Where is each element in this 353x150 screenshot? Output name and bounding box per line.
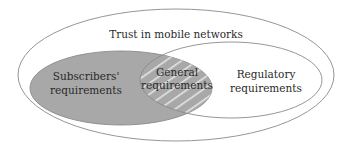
general-label-line1: General	[156, 66, 199, 78]
subscribers-label-line2: requirements	[50, 84, 122, 96]
regulatory-label-line2: requirements	[230, 82, 302, 94]
venn-diagram: Trust in mobile networks Subscribers' re…	[0, 0, 353, 150]
general-label-line2: requirements	[141, 79, 213, 91]
subscribers-label-line1: Subscribers'	[53, 70, 120, 82]
regulatory-label-line1: Regulatory	[237, 68, 296, 80]
outer-label: Trust in mobile networks	[109, 28, 243, 40]
